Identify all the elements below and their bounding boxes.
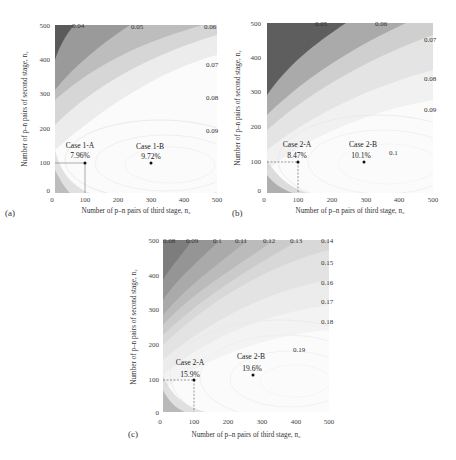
svg-text:500: 500 [251,20,262,28]
svg-text:200: 200 [327,196,338,204]
case-value: 10.1% [351,151,371,160]
contour-label: 0.04 [72,22,85,30]
case-value: 19.6% [242,364,262,373]
contour-label: 0.08 [424,75,437,83]
svg-text:0: 0 [262,196,266,204]
case-name: Case 1-B [136,142,164,151]
svg-text:300: 300 [40,90,51,98]
case-marker [150,162,153,165]
contour-label: 0.05 [131,23,144,31]
svg-text:300: 300 [251,88,262,96]
svg-text:300: 300 [146,196,157,204]
svg-text:0: 0 [258,187,262,195]
contour-label: 0.1 [389,149,398,157]
svg-text:0: 0 [47,187,51,195]
case-marker [363,161,366,164]
svg-text:500: 500 [149,237,160,245]
case-name: Case 1-A [66,141,95,150]
svg-text:500: 500 [428,196,439,204]
contour-label: 0.16 [321,279,334,287]
x-axis-a: 0 100 200 300 400 500 [50,196,223,204]
svg-text:0: 0 [158,418,162,426]
case-value: 7.96% [70,151,90,160]
y-axis-label: Number of p–n pairs of second stage, n₂ [130,269,138,385]
svg-text:400: 400 [179,196,190,204]
svg-text:400: 400 [394,196,405,204]
case-value: 15.9% [180,370,200,379]
panel-label: (b) [232,208,243,218]
case-name: Case 2-A [176,358,205,367]
svg-text:100: 100 [293,196,304,204]
svg-text:400: 400 [149,272,160,280]
case-marker [84,162,87,165]
case-marker [252,374,255,377]
case-value: 9.72% [141,152,161,161]
case-name: Case 2-B [237,352,265,361]
contour-fill-c [163,240,390,430]
panel-b: 0.05 0.06 0.07 0.08 0.09 0.1 0 100 200 3… [228,0,456,222]
svg-text:300: 300 [149,306,160,314]
case-name: Case 2-B [349,140,377,149]
contour-label: 0.08 [206,94,219,102]
svg-text:200: 200 [40,125,51,133]
svg-text:100: 100 [149,376,160,384]
contour-label: 0.09 [186,237,199,245]
x-axis-c: 0 100 200 300 400 500 [158,418,335,426]
contour-fill-b [267,23,456,205]
svg-text:400: 400 [40,56,51,64]
svg-text:300: 300 [257,418,268,426]
contour-label: 0.07 [424,36,437,44]
svg-text:300: 300 [361,196,372,204]
contour-label: 0.13 [290,237,303,245]
contour-label: 0.18 [321,318,334,326]
svg-text:400: 400 [291,418,302,426]
contour-label: 0.19 [293,346,306,354]
svg-text:200: 200 [113,196,124,204]
contour-label: 0.08 [163,237,176,245]
svg-text:200: 200 [251,123,262,131]
svg-text:0: 0 [50,196,54,204]
x-axis-b: 0 100 200 300 400 500 [262,196,439,204]
panel-a: 0.04 0.05 0.06 0.07 0.08 0.09 0 100 200 … [0,0,230,222]
case-marker [297,161,300,164]
svg-text:0: 0 [156,409,160,417]
svg-text:100: 100 [189,418,200,426]
case-value: 8.47% [287,151,307,160]
contour-label: 0.06 [375,20,388,28]
x-axis-label: Number of p–n pairs of third stage, n₃ [191,431,301,439]
panel-c: 0.08 0.09 0.1 0.11 0.12 0.13 0.14 0.15 0… [110,225,350,460]
contour-label: 0.14 [321,237,334,245]
contour-label: 0.05 [315,20,328,28]
contour-label: 0.15 [321,259,334,267]
y-axis-b: 0 100 200 300 400 500 [251,20,262,195]
svg-text:200: 200 [223,418,234,426]
panel-label: (c) [128,429,138,439]
y-axis-label: Number of p–n pairs of second stage, n₂ [21,51,29,167]
y-axis-a: 0 100 200 300 400 500 [40,22,51,195]
svg-text:200: 200 [149,341,160,349]
panel-label: (a) [5,208,15,218]
svg-text:100: 100 [80,196,91,204]
contour-label: 0.12 [263,237,276,245]
svg-text:100: 100 [40,159,51,167]
contour-label: 0.07 [206,61,219,69]
contour-label: 0.11 [235,237,247,245]
svg-text:400: 400 [251,54,262,62]
contour-label: 0.06 [204,23,217,31]
svg-text:500: 500 [40,22,51,30]
x-axis-label: Number of p–n pairs of third stage, n₃ [81,207,191,215]
svg-text:500: 500 [324,418,335,426]
contour-label: 0.09 [206,127,219,135]
contour-label: 0.17 [321,298,334,306]
contour-label: 0.1 [213,237,222,245]
contour-label: 0.09 [424,106,437,114]
svg-text:500: 500 [212,196,223,204]
y-axis-c: 0 100 200 300 400 500 [149,237,160,417]
svg-text:100: 100 [251,158,262,166]
case-name: Case 2-A [283,140,312,149]
x-axis-label: Number of p–n pairs of third stage, n₃ [295,207,405,215]
y-axis-label: Number of p–n pairs of second stage, n₂ [234,50,242,166]
